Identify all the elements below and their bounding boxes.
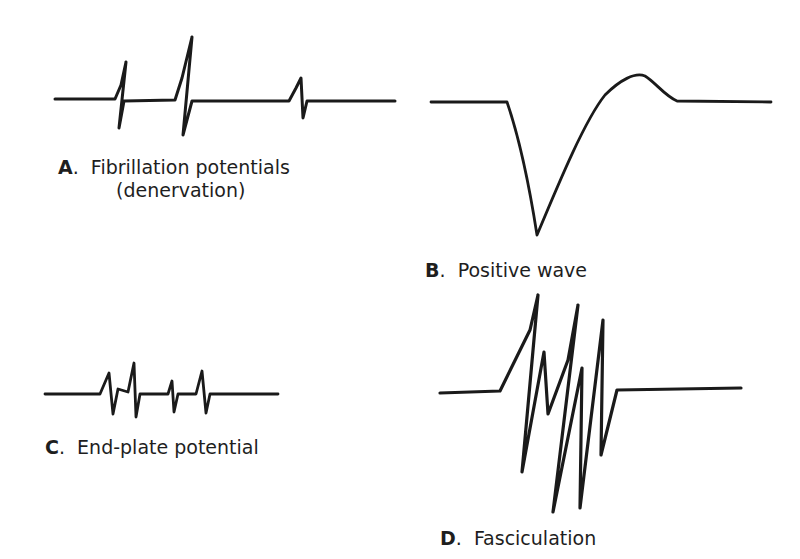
waveform-b-positive-wave xyxy=(431,75,771,235)
panel-a-label: A. Fibrillation potentials xyxy=(58,156,290,179)
panel-c-separator: . xyxy=(59,436,65,458)
panel-c-letter: C xyxy=(45,436,59,458)
panel-a-title: Fibrillation potentials xyxy=(91,156,290,178)
panel-a-subtitle: (denervation) xyxy=(116,179,245,202)
panel-b-letter: B xyxy=(425,259,439,281)
panel-d-title: Fasciculation xyxy=(474,527,596,549)
waveform-a-fibrillation xyxy=(55,37,395,135)
panel-a-separator: . xyxy=(73,156,79,178)
panel-d-separator: . xyxy=(456,527,462,549)
panel-c-title: End-plate potential xyxy=(77,436,259,458)
panel-b-title: Positive wave xyxy=(458,259,587,281)
panel-d-letter: D xyxy=(440,527,456,549)
waveform-diagram xyxy=(0,0,800,559)
panel-d-label: D. Fasciculation xyxy=(440,527,596,550)
waveform-c-end-plate xyxy=(45,363,278,417)
panel-b-label: B. Positive wave xyxy=(425,259,587,282)
panel-c-label: C. End-plate potential xyxy=(45,436,259,459)
panel-a-letter: A xyxy=(58,156,73,178)
waveform-d-fasciculation xyxy=(440,295,741,512)
panel-b-separator: . xyxy=(439,259,445,281)
